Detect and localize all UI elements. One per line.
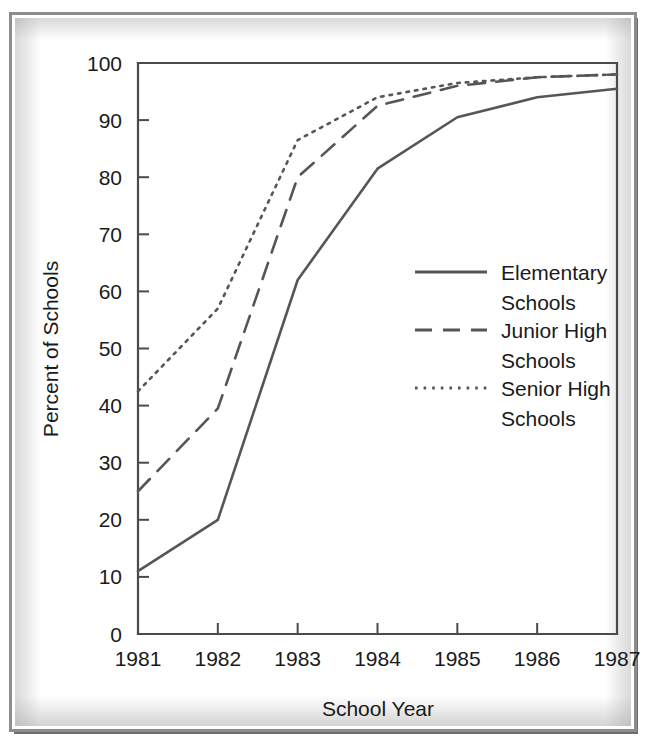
legend-label: Elementary [501, 261, 608, 284]
y-axis-title: Percent of Schools [39, 261, 62, 437]
y-tick-label: 90 [99, 109, 122, 132]
x-axis-title: School Year [322, 697, 434, 720]
y-tick-group [138, 120, 149, 577]
x-tick-label: 1983 [274, 647, 321, 670]
chart-legend: ElementarySchoolsJunior HighSchoolsSenio… [415, 261, 611, 430]
line-chart: 0102030405060708090100 19811982198319841… [0, 0, 661, 756]
y-tick-label: 100 [87, 52, 122, 75]
x-tick-label: 1987 [594, 647, 641, 670]
series-line-senior-high-schools [138, 74, 617, 391]
legend-label: Schools [501, 349, 576, 372]
legend-label: Schools [501, 407, 576, 430]
x-tick-label: 1985 [434, 647, 481, 670]
y-tick-label: 30 [99, 451, 122, 474]
y-tick-label: 60 [99, 280, 122, 303]
legend-label: Senior High [501, 377, 611, 400]
y-tick-label: 40 [99, 394, 122, 417]
x-tick-label: 1981 [115, 647, 162, 670]
legend-label: Junior High [501, 319, 607, 342]
x-tick-group [218, 623, 537, 634]
y-tick-label: 20 [99, 508, 122, 531]
y-tick-label: 70 [99, 223, 122, 246]
y-tick-label: 0 [110, 623, 122, 646]
y-tick-label: 10 [99, 565, 122, 588]
x-tick-label: 1986 [514, 647, 561, 670]
y-tick-label: 50 [99, 337, 122, 360]
x-tick-label: 1982 [194, 647, 241, 670]
legend-label: Schools [501, 291, 576, 314]
x-tick-label-group: 1981198219831984198519861987 [115, 647, 641, 670]
x-tick-label: 1984 [354, 647, 401, 670]
y-tick-label-group: 0102030405060708090100 [87, 52, 122, 646]
chart-page: 0102030405060708090100 19811982198319841… [0, 0, 661, 756]
y-tick-label: 80 [99, 166, 122, 189]
